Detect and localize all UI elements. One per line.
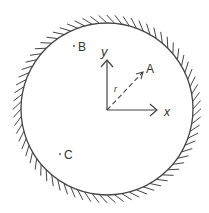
x-axis-label: x — [163, 105, 171, 119]
x-axis — [107, 104, 157, 116]
point-c-label: C — [64, 148, 73, 162]
point-b-marker — [73, 45, 75, 47]
point-b-label: B — [78, 40, 86, 54]
y-axis-label: y — [100, 44, 109, 59]
position-vector-r — [107, 72, 143, 110]
point-c-marker — [59, 153, 61, 155]
r-vector-label: r — [114, 84, 118, 94]
diagram-canvas: y x A r B C — [0, 0, 209, 213]
y-axis — [101, 60, 113, 110]
point-a-label: A — [146, 62, 154, 76]
